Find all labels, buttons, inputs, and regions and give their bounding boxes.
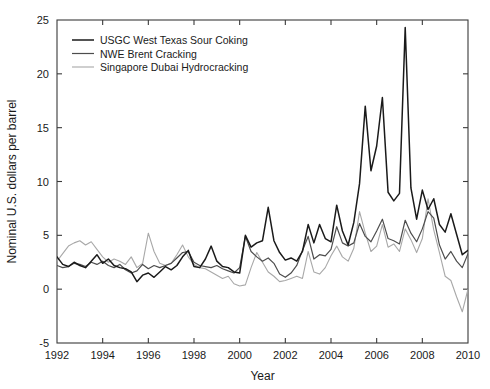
x-tick-label: 1998: [182, 349, 206, 361]
x-tick-label: 1996: [136, 349, 160, 361]
chart-legend: USGC West Texas Sour CokingNWE Brent Cra…: [72, 34, 248, 73]
y-tick-label: 5: [43, 229, 49, 241]
x-tick-label: 2004: [319, 349, 343, 361]
x-tick-label: 2002: [273, 349, 297, 361]
series-line: [57, 199, 468, 312]
x-tick-label: 2008: [410, 349, 434, 361]
y-tick-label: 25: [37, 14, 49, 26]
line-chart-svg: 1992199419961998200020022004200620082010…: [0, 0, 490, 389]
x-axis-title: Year: [250, 369, 274, 383]
chart-figure: 1992199419961998200020022004200620082010…: [0, 0, 490, 389]
y-tick-label: 0: [43, 283, 49, 295]
x-tick-label: 2010: [456, 349, 480, 361]
y-axis-title: Nominal U.S. dollars per barrel: [5, 99, 19, 263]
legend-label: USGC West Texas Sour Coking: [100, 34, 248, 46]
x-tick-label: 1992: [45, 349, 69, 361]
legend-label: NWE Brent Cracking: [100, 48, 197, 60]
x-tick-label: 1994: [90, 349, 114, 361]
y-tick-label: -5: [39, 337, 49, 349]
y-tick-label: 10: [37, 176, 49, 188]
y-tick-label: 15: [37, 122, 49, 134]
x-tick-label: 2000: [227, 349, 251, 361]
legend-label: Singapore Dubai Hydrocracking: [100, 61, 248, 73]
y-tick-label: 20: [37, 68, 49, 80]
x-tick-label: 2006: [364, 349, 388, 361]
